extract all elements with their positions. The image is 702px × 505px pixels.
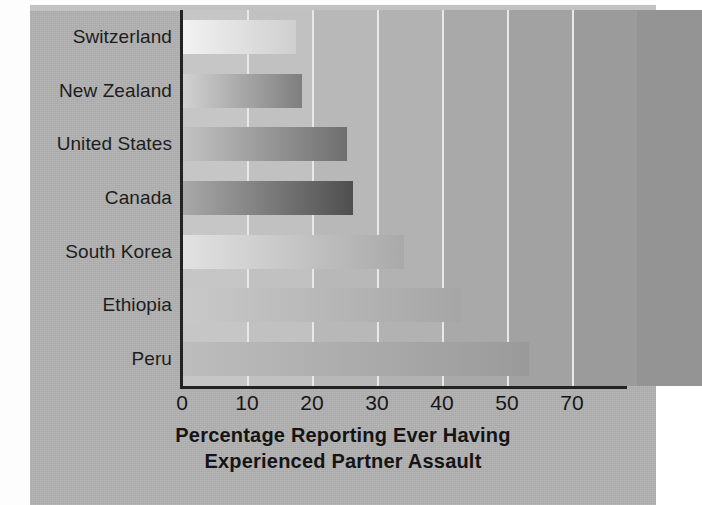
bar-row (182, 20, 626, 54)
axis-title-line-2: Experienced Partner Assault (30, 448, 656, 474)
category-label-new-zealand: New Zealand (59, 74, 172, 108)
plot-area (182, 10, 626, 386)
background-column (637, 10, 702, 386)
x-tick-label: 50 (495, 391, 518, 415)
category-label-peru: Peru (131, 342, 172, 376)
bar-row (182, 288, 626, 322)
x-axis-line (180, 386, 627, 389)
category-label-ethiopia: Ethiopia (103, 288, 172, 322)
x-tick-label: 70 (560, 391, 583, 415)
x-tick-label: 0 (176, 391, 188, 415)
x-tick-label: 10 (235, 391, 258, 415)
x-axis-tick-labels: 0102030405070 (182, 391, 642, 419)
bar-row (182, 181, 626, 215)
x-tick-label: 30 (365, 391, 388, 415)
plot-inner (182, 10, 626, 386)
y-axis-line (180, 10, 183, 388)
bar-ethiopia[interactable] (182, 288, 461, 322)
bar-row (182, 74, 626, 108)
category-label-south-korea: South Korea (65, 235, 172, 269)
bar-peru[interactable] (182, 342, 529, 376)
bar-row (182, 342, 626, 376)
category-axis-labels: SwitzerlandNew ZealandUnited StatesCanad… (36, 10, 178, 386)
x-tick-label: 20 (300, 391, 323, 415)
bar-new-zealand[interactable] (182, 74, 302, 108)
bar-row (182, 235, 626, 269)
bar-switzerland[interactable] (182, 20, 296, 54)
bar-south-korea[interactable] (182, 235, 404, 269)
bar-united-states[interactable] (182, 127, 347, 161)
category-label-canada: Canada (105, 181, 172, 215)
axis-title-line-1: Percentage Reporting Ever Having (30, 422, 656, 448)
axis-title: Percentage Reporting Ever Having Experie… (30, 422, 656, 474)
category-label-switzerland: Switzerland (73, 20, 172, 54)
category-label-united-states: United States (57, 127, 172, 161)
x-tick-label: 40 (430, 391, 453, 415)
bar-row (182, 127, 626, 161)
bar-canada[interactable] (182, 181, 353, 215)
